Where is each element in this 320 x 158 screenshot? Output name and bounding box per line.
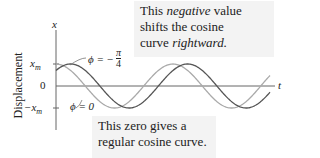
tick-label-zero: 0	[40, 79, 46, 91]
y-axis-label: x	[52, 18, 57, 30]
shifted-phase-label: ϕ = − π 4	[88, 48, 121, 69]
regular-phase-label: ϕ = 0	[70, 100, 94, 112]
tick-label-xm: xm	[30, 57, 41, 72]
tick-label-neg-xm: −xm	[24, 101, 42, 116]
t-axis-label: t	[278, 79, 281, 91]
